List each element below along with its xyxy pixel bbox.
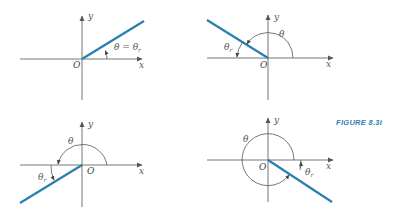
- reference-angle-label: θr: [305, 167, 314, 178]
- panel-quadrant-3: y x O θ θr: [20, 119, 144, 207]
- figure-caption: FIGURE 8.3i: [336, 118, 383, 127]
- reference-angle-arc: [237, 43, 242, 57]
- theta-label: θ: [279, 29, 285, 39]
- origin-label: O: [87, 166, 95, 176]
- theta-arc: [58, 144, 107, 165]
- angle-arc: [105, 51, 107, 59]
- theta-label: θ: [243, 134, 249, 144]
- panel-quadrant-4: y x O θ θr: [207, 115, 333, 202]
- panel-quadrant-1: y x O θ = θr: [20, 11, 144, 100]
- theta-label: θ: [68, 136, 74, 146]
- terminal-ray: [82, 21, 144, 59]
- theta-arc: [247, 33, 293, 58]
- reference-angle-arc: [51, 165, 54, 180]
- origin-label: O: [260, 60, 268, 70]
- y-label: y: [273, 12, 280, 22]
- angle-label: θ = θr: [114, 42, 142, 53]
- origin-label: O: [259, 162, 267, 172]
- x-label: x: [326, 161, 331, 171]
- y-label: y: [87, 119, 94, 129]
- origin-label: O: [73, 60, 81, 70]
- x-label: x: [139, 166, 144, 176]
- y-label: y: [273, 115, 280, 125]
- y-label: y: [87, 11, 94, 21]
- x-label: x: [326, 59, 331, 69]
- reference-angle-figure: y x O θ = θr y x O θ θr y x O θ θr: [0, 0, 409, 210]
- reference-angle-label: θr: [224, 42, 233, 53]
- panel-quadrant-2: y x O θ θr: [207, 12, 333, 100]
- reference-angle-label: θr: [38, 172, 47, 183]
- x-label: x: [139, 60, 144, 70]
